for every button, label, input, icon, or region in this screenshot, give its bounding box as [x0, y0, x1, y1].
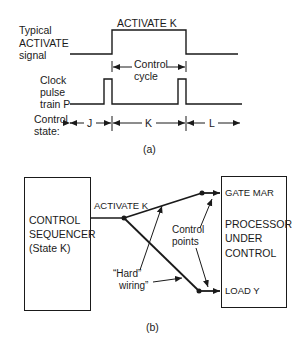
caption-a: (a) [143, 143, 156, 155]
state-j: J [87, 117, 92, 129]
activate-label-line1: Typical [19, 24, 52, 36]
sequencer-line1: CONTROL [29, 214, 80, 226]
hard-wiring-line2: wiring” [119, 280, 148, 292]
control-points-line1: Control [172, 224, 204, 236]
load-y-label: LOAD Y [225, 285, 260, 297]
clock-label-line3: train P [40, 98, 70, 110]
activate-k-wire-label: ACTIVATE K [94, 200, 148, 212]
activate-waveform [70, 30, 238, 54]
state-l: L [209, 117, 215, 129]
sequencer-line3: (State K) [29, 242, 70, 254]
control-state-label-line2: state: [34, 125, 60, 137]
control-cycle-line2: cycle [134, 70, 158, 82]
gate-mar-node [200, 191, 205, 196]
processor-line2: UNDER [225, 232, 262, 244]
control-cycle-line1: Control [134, 58, 168, 70]
state-k: K [145, 117, 152, 129]
clock-label-line1: Clock [40, 74, 66, 86]
activate-label-line2: ACTIVATE [19, 37, 69, 49]
control-points-line2: points [172, 236, 199, 248]
caption-b: (b) [146, 321, 159, 333]
activate-k-pulse-label: ACTIVATE K [117, 17, 177, 29]
activate-label-line3: signal [19, 49, 46, 61]
processor-line1: PROCESSOR [225, 218, 292, 230]
processor-line3: CONTROL [225, 247, 276, 259]
clock-label-line2: pulse [40, 86, 65, 98]
sequencer-line2: SEQUENCER [29, 228, 96, 240]
clock-waveform [70, 79, 242, 104]
hard-wiring-line1: “Hard” [113, 268, 141, 280]
load-y-node [197, 289, 202, 294]
junction-node [122, 216, 127, 221]
gate-mar-label: GATE MAR [225, 187, 274, 199]
control-state-label-line1: Control [34, 113, 68, 125]
